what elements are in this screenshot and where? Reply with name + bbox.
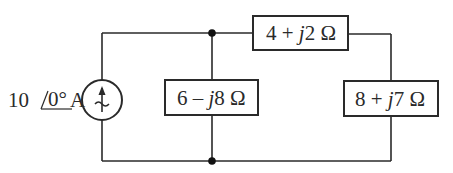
circuit-diagram: 10 0° A 4 + j2 Ω 6 – j8 Ω 8 + j7 Ω <box>0 0 453 173</box>
node-bottom-dot <box>208 157 216 165</box>
impedance-z2: 6 – j8 Ω <box>165 80 258 115</box>
impedance-z2-label: 6 – j8 Ω <box>177 86 246 110</box>
angle-symbol-icon <box>41 91 48 109</box>
source-magnitude: 10 <box>8 88 29 112</box>
impedance-z1: 4 + j2 Ω <box>253 16 348 50</box>
source-angle: 0° <box>48 87 67 111</box>
node-top-dot <box>208 29 216 37</box>
impedance-z3-label: 8 + j7 Ω <box>355 87 425 111</box>
source-label: 10 0° A <box>8 87 86 112</box>
impedance-z1-label: 4 + j2 Ω <box>266 21 336 45</box>
source-unit: A <box>70 88 86 112</box>
current-source <box>82 80 122 120</box>
impedance-z3: 8 + j7 Ω <box>344 81 438 116</box>
